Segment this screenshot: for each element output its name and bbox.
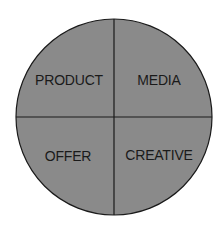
quadrant-label-product: PRODUCT (35, 72, 103, 88)
circle-graphic (0, 0, 224, 233)
quadrant-circle-diagram: PRODUCT MEDIA OFFER CREATIVE (0, 0, 224, 233)
quadrant-label-media: MEDIA (137, 72, 180, 88)
quadrant-label-offer: OFFER (45, 148, 91, 164)
quadrant-label-creative: CREATIVE (125, 147, 192, 163)
